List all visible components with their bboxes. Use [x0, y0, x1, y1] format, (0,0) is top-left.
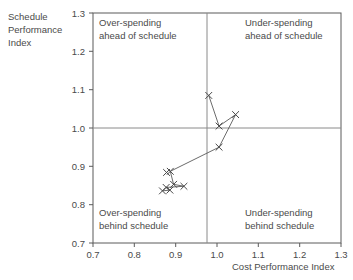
y-axis-tick-labels: 0.7 0.8 0.9 1.0 1.1 1.2 1.3	[72, 8, 85, 249]
scatter-plot-svg: Schedule Performance Index Cost Performa…	[0, 0, 353, 280]
quadrant-label-bottom-right: Under-spending behind schedule	[245, 207, 314, 231]
x-tick-label-3: 1.0	[210, 249, 223, 260]
y-axis-ticks	[89, 13, 93, 243]
series-connector-path	[162, 95, 235, 190]
y-tick-label-4: 1.1	[72, 84, 85, 95]
quadrant-label-top-left: Over-spending ahead of schedule	[99, 17, 177, 41]
x-axis-title: Cost Performance Index	[232, 261, 335, 272]
y-axis-title-line1: Schedule	[8, 11, 48, 22]
quadrant-top-right-line2: ahead of schedule	[245, 30, 323, 41]
x-tick-label-2: 0.9	[169, 249, 182, 260]
y-tick-label-5: 1.2	[72, 46, 85, 57]
x-tick-label-5: 1.2	[293, 249, 306, 260]
data-point-marker	[216, 144, 223, 151]
x-tick-label-6: 1.3	[334, 249, 347, 260]
quadrant-top-right-line1: Under-spending	[245, 17, 313, 28]
quadrant-bottom-right-line1: Under-spending	[245, 207, 313, 218]
y-axis-title-line3: Index	[8, 37, 31, 48]
y-tick-label-1: 0.8	[72, 199, 85, 210]
data-point-marker	[232, 111, 239, 118]
quadrant-label-top-right: Under-spending ahead of schedule	[245, 17, 323, 41]
data-markers-group	[159, 92, 239, 194]
quadrant-top-left-line2: ahead of schedule	[99, 30, 177, 41]
chart-container: Schedule Performance Index Cost Performa…	[0, 0, 353, 280]
y-tick-label-0: 0.7	[72, 238, 85, 249]
x-tick-label-1: 0.8	[128, 249, 141, 260]
y-tick-label-3: 1.0	[72, 123, 85, 134]
quadrant-bottom-left-line2: behind schedule	[99, 220, 168, 231]
x-axis-ticks	[93, 243, 341, 247]
y-axis-title-line2: Performance	[8, 24, 62, 35]
quadrant-bottom-right-line2: behind schedule	[245, 220, 314, 231]
x-tick-label-0: 0.7	[86, 249, 99, 260]
quadrant-bottom-left-line1: Over-spending	[99, 207, 161, 218]
quadrant-label-bottom-left: Over-spending behind schedule	[99, 207, 168, 231]
y-tick-label-2: 0.9	[72, 161, 85, 172]
x-tick-label-4: 1.1	[252, 249, 265, 260]
data-point-marker	[205, 92, 212, 99]
y-tick-label-6: 1.3	[72, 8, 85, 19]
x-axis-tick-labels: 0.7 0.8 0.9 1.0 1.1 1.2 1.3	[86, 249, 347, 260]
quadrant-top-left-line1: Over-spending	[99, 17, 161, 28]
